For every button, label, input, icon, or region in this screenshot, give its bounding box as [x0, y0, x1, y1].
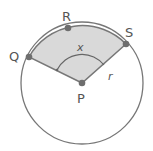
label-angle-x: x: [76, 41, 84, 54]
label-p: P: [77, 91, 85, 106]
label-q: Q: [9, 49, 19, 64]
label-s: S: [125, 25, 133, 40]
circle-sector-diagram: Q R S P x r: [0, 0, 153, 151]
label-r: R: [62, 9, 71, 24]
point-p: [79, 80, 86, 87]
angle-arc-tick: [56, 69, 59, 72]
point-s: [123, 41, 130, 48]
point-r: [65, 25, 72, 32]
label-radius-r: r: [108, 70, 114, 83]
point-q: [26, 54, 33, 61]
